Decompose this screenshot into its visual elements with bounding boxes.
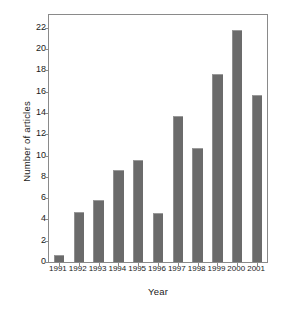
bar — [252, 95, 262, 262]
x-axis-tick-label: 1998 — [188, 265, 206, 273]
bar — [192, 148, 202, 262]
y-axis-tick-mark — [45, 70, 49, 71]
y-axis-tick-mark — [45, 113, 49, 114]
x-axis-title: Year — [48, 286, 268, 297]
y-axis-tick-mark — [45, 219, 49, 220]
bar — [54, 255, 64, 262]
bar — [153, 213, 163, 262]
x-axis-tick-label: 1993 — [89, 265, 107, 273]
y-axis-tick-label: 0 — [26, 257, 46, 266]
x-axis-tick-label: 1999 — [208, 265, 226, 273]
bar — [133, 160, 143, 262]
y-axis-tick-mark — [45, 198, 49, 199]
bar — [113, 170, 123, 262]
x-axis-tick-label: 1994 — [108, 265, 126, 273]
bar-chart: Number of articles 0246810121416182022 1… — [0, 0, 283, 311]
y-axis-tick-mark — [45, 92, 49, 93]
y-axis-tick-mark — [45, 241, 49, 242]
x-axis-tick-label: 1996 — [148, 265, 166, 273]
x-axis-tick-label: 1995 — [128, 265, 146, 273]
plot-area — [48, 14, 268, 263]
x-axis-tick-label: 1992 — [69, 265, 87, 273]
y-axis-tick-label: 2 — [26, 235, 46, 244]
bar — [232, 30, 242, 262]
x-axis-tick-label: 1991 — [49, 265, 67, 273]
x-axis-tick-labels: 1991199219931994199519961997199819992000… — [48, 265, 268, 279]
y-axis-tick-label: 18 — [26, 65, 46, 74]
y-axis-tick-mark — [45, 49, 49, 50]
y-axis-tick-label: 12 — [26, 129, 46, 138]
y-axis-tick-label: 16 — [26, 86, 46, 95]
y-axis-tick-label: 4 — [26, 214, 46, 223]
y-axis-tick-mark — [45, 177, 49, 178]
x-axis-tick-label: 2000 — [227, 265, 245, 273]
y-axis-tick-label: 14 — [26, 107, 46, 116]
bar — [93, 200, 103, 262]
y-axis-tick-mark — [45, 262, 49, 263]
y-axis-tick-mark — [45, 156, 49, 157]
y-axis-tick-label: 22 — [26, 22, 46, 31]
y-axis-tick-label: 10 — [26, 150, 46, 159]
x-axis-tick-label: 2001 — [247, 265, 265, 273]
y-axis-tick-mark — [45, 28, 49, 29]
bar — [74, 212, 84, 262]
y-axis-tick-labels: 0246810121416182022 — [24, 0, 46, 311]
y-axis-tick-label: 20 — [26, 44, 46, 53]
bar-series — [49, 15, 267, 262]
y-axis-tick-label: 6 — [26, 193, 46, 202]
x-axis-tick-label: 1997 — [168, 265, 186, 273]
y-axis-tick-label: 8 — [26, 171, 46, 180]
y-axis-tick-mark — [45, 134, 49, 135]
bar — [212, 74, 222, 262]
bar — [173, 116, 183, 262]
